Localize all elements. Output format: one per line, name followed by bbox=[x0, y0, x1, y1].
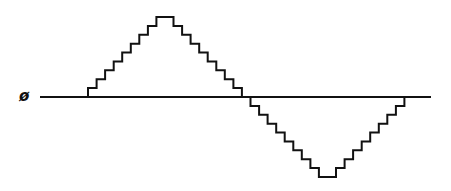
staircase-sine-diagram bbox=[0, 0, 451, 191]
